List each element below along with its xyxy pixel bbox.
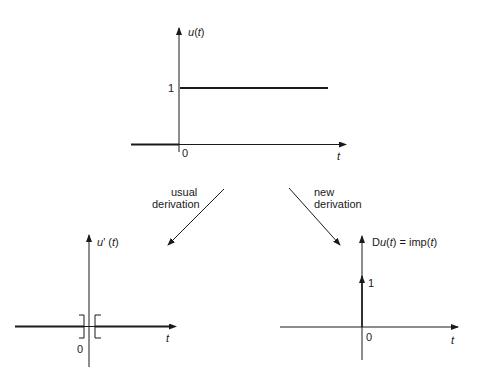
- bl-origin-label: 0: [77, 343, 83, 355]
- bottom-left-graph-classical-derivative: 0 t u' (t): [15, 235, 176, 367]
- top-xlabel: t: [337, 150, 341, 162]
- usual-derivation-label-2: derivation: [152, 198, 200, 210]
- top-graph-unit-step: 1 0 t u(t): [131, 26, 346, 162]
- bottom-right-graph-impulse: 1 0 t Du(t) = imp(t): [280, 236, 458, 360]
- derivation-arrows: usual derivation new derivation: [152, 186, 362, 245]
- br-xlabel: t: [451, 334, 455, 346]
- top-ytick-label: 1: [168, 82, 174, 94]
- br-ylabel: Du(t) = imp(t): [372, 236, 437, 248]
- top-ylabel: u(t): [188, 26, 205, 38]
- top-origin-label: 0: [182, 147, 188, 159]
- br-origin-label: 0: [366, 331, 372, 343]
- bl-ylabel: u' (t): [97, 236, 119, 248]
- bl-xlabel: t: [166, 332, 170, 344]
- new-derivation-label-1: new: [314, 186, 334, 198]
- new-derivation-label-2: derivation: [314, 198, 362, 210]
- usual-derivation-label-1: usual: [171, 186, 197, 198]
- br-impulse-height-label: 1: [368, 277, 374, 289]
- derivative-diagram: 1 0 t u(t) usual derivation new derivati…: [0, 0, 478, 379]
